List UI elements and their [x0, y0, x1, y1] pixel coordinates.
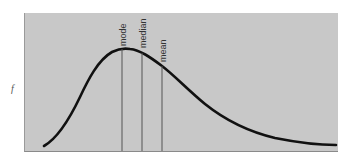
median-label: median [138, 18, 148, 48]
mean-label: mean [158, 39, 168, 62]
distribution-curve [44, 49, 336, 146]
mode-label: mode [118, 23, 128, 46]
distribution-chart: mode median mean [0, 0, 352, 158]
